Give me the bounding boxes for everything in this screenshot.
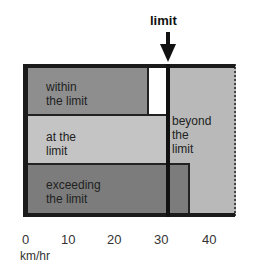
exceeding-label-line1: exceeding bbox=[46, 178, 101, 192]
at-label-line1: at the bbox=[46, 130, 76, 144]
axis-tick-10: 10 bbox=[61, 232, 75, 247]
limit-title: limit bbox=[150, 13, 177, 28]
axis-tick-30: 30 bbox=[154, 232, 168, 247]
exceeding-label: exceeding the limit bbox=[46, 178, 101, 206]
axis-unit: km/hr bbox=[20, 249, 50, 263]
beyond-label-line1: beyond bbox=[172, 114, 211, 128]
within-label-line2: the limit bbox=[46, 94, 87, 108]
axis-tick-40: 40 bbox=[202, 232, 216, 247]
frame-left bbox=[23, 64, 28, 217]
frame-top bbox=[23, 64, 235, 68]
beyond-label-line2: the bbox=[172, 128, 211, 142]
axis-tick-0: 0 bbox=[22, 232, 29, 247]
frame-bottom bbox=[23, 213, 235, 217]
beyond-label: beyond the limit bbox=[172, 114, 211, 156]
exceeding-label-line2: the limit bbox=[46, 192, 101, 206]
axis-tick-20: 20 bbox=[107, 232, 121, 247]
down-arrow-icon bbox=[160, 44, 176, 62]
limit-line bbox=[166, 64, 170, 217]
within-label-line1: within bbox=[46, 80, 87, 94]
within-limit-gap bbox=[149, 68, 166, 116]
at-label-line2: limit bbox=[46, 144, 76, 158]
within-label: within the limit bbox=[46, 80, 87, 108]
beyond-label-line3: limit bbox=[172, 142, 211, 156]
at-label: at the limit bbox=[46, 130, 76, 158]
